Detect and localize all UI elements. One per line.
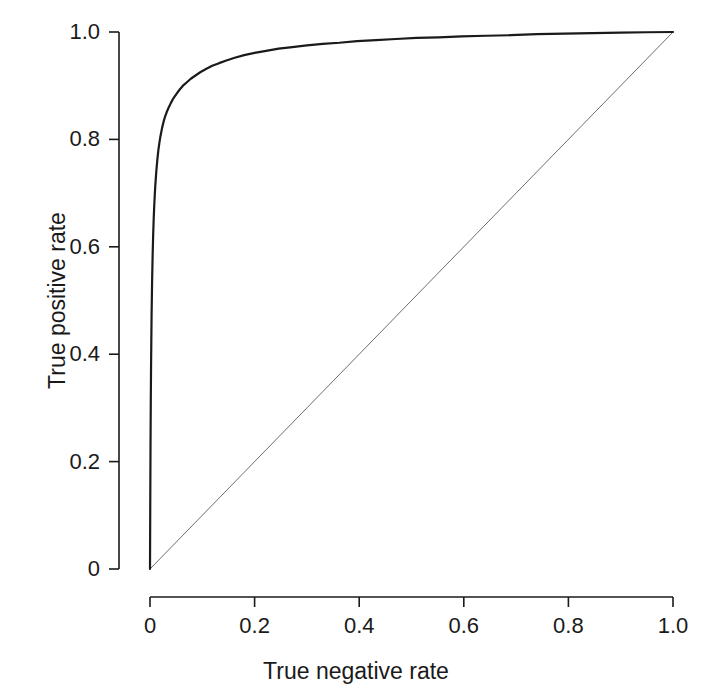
x-tick-label: 1.0 xyxy=(658,613,689,639)
y-axis-title: True positive rate xyxy=(44,32,71,569)
x-tick-label: 0 xyxy=(144,613,156,639)
chance-diagonal xyxy=(150,32,673,569)
x-tick-label: 0.2 xyxy=(239,613,270,639)
x-tick-label: 0.4 xyxy=(344,613,375,639)
x-tick-label: 0.6 xyxy=(449,613,480,639)
plot-canvas xyxy=(0,0,712,697)
x-tick-label: 0.8 xyxy=(553,613,584,639)
roc-chart-figure: 00.20.40.60.81.0 00.20.40.60.81.0 True n… xyxy=(0,0,712,697)
chance-diagonal-line xyxy=(150,32,673,569)
x-axis-title: True negative rate xyxy=(0,658,712,685)
